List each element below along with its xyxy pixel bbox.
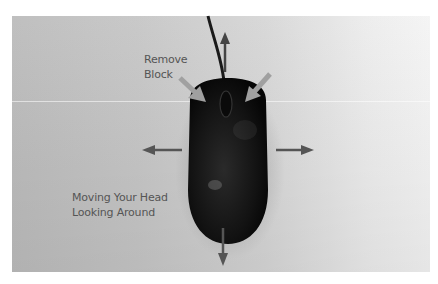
moving-head-label: Moving Your Head Looking Around — [72, 190, 168, 220]
moving-head-line-1: Moving Your Head — [72, 190, 168, 205]
moving-head-line-2: Looking Around — [72, 205, 168, 220]
remove-block-line-2: Block — [144, 67, 187, 82]
mouse-cable — [208, 16, 224, 82]
remove-block-line-1: Remove — [144, 52, 187, 67]
mouse-diagram — [0, 0, 438, 284]
scroll-wheel — [220, 91, 232, 117]
remove-block-label: Remove Block — [144, 52, 187, 82]
